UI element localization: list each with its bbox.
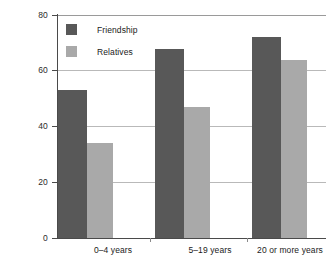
bar-chart: 80 60 40 20 0 0–4 years 5–19 years 20 or…	[0, 0, 334, 261]
y-tick-label-60: 60	[4, 65, 48, 75]
legend-label-relatives: Relatives	[97, 47, 133, 57]
x-category-label-5-19-years: 5–19 years	[188, 245, 231, 255]
bar-friendship-0-4-years	[58, 90, 87, 238]
y-axis-labels: 80 60 40 20 0	[0, 0, 48, 261]
bar-relatives-20-or-more-years	[281, 60, 307, 238]
relatives-swatch-icon	[66, 46, 77, 57]
friendship-swatch-icon	[66, 24, 77, 35]
x-category-label-20-or-more-years: 20 or more years	[257, 245, 323, 255]
y-tick-label-20: 20	[4, 177, 48, 187]
y-axis-line	[57, 14, 58, 239]
x-tick-mark-2	[247, 238, 248, 242]
bar-friendship-5-19-years	[155, 49, 184, 239]
x-tick-mark-1	[150, 238, 151, 242]
y-tick-label-80: 80	[4, 10, 48, 20]
chart-legend: Friendship Relatives	[66, 21, 138, 65]
bar-friendship-20-or-more-years	[252, 37, 281, 238]
y-tick-label-40: 40	[4, 121, 48, 131]
legend-item-relatives: Relatives	[66, 43, 138, 60]
x-axis-line	[58, 238, 326, 239]
y-tick-label-0: 0	[4, 233, 48, 243]
bar-relatives-0-4-years	[87, 143, 113, 238]
legend-item-friendship: Friendship	[66, 21, 138, 38]
legend-label-friendship: Friendship	[97, 25, 138, 35]
x-category-label-0-4-years: 0–4 years	[94, 245, 132, 255]
bar-relatives-5-19-years	[184, 107, 210, 238]
